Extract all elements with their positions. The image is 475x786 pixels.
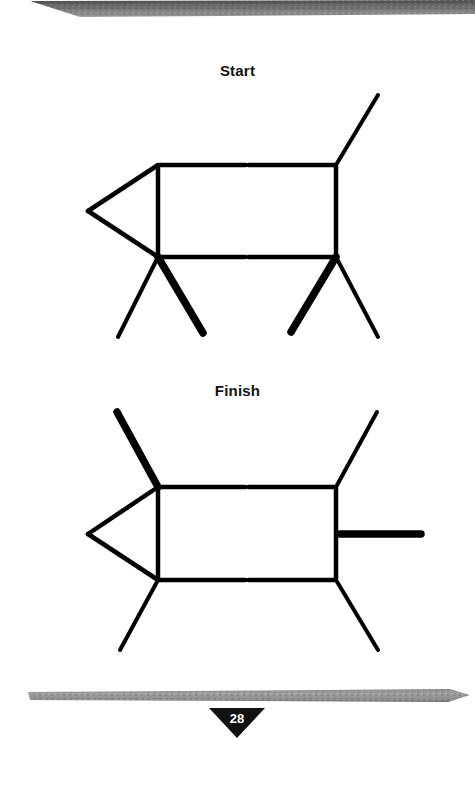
page-number-triangle	[209, 708, 265, 738]
stick-front-leg-left	[120, 580, 158, 650]
stick-rear-leg-right	[336, 257, 378, 337]
section-label-start: Start	[0, 62, 475, 79]
stick-tail	[336, 412, 377, 487]
section-label-finish: Finish	[0, 382, 475, 399]
stick-head-lower	[88, 211, 158, 257]
start-figure	[0, 85, 475, 355]
page-number-plate: 28	[207, 708, 267, 748]
stick-tail	[336, 95, 378, 165]
stick-rear-leg-right	[336, 580, 378, 650]
stick-front-leg-left	[118, 257, 158, 337]
stick-head-upper	[88, 487, 158, 534]
stick-head-upper	[88, 165, 158, 211]
stick-front-leg-right	[158, 257, 203, 333]
puzzle-page: Start Finish	[0, 0, 475, 786]
stick-head-lower	[88, 534, 158, 580]
stick-horn	[117, 412, 158, 487]
finish-figure	[0, 400, 475, 662]
stick-rear-leg-left	[291, 257, 336, 332]
top-decorative-bar	[0, 0, 475, 22]
